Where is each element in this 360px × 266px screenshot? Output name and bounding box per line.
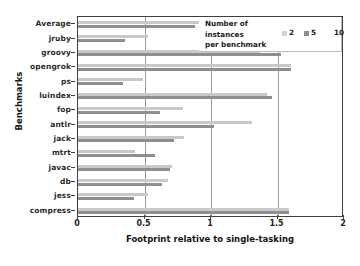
x-tick-mark	[343, 215, 344, 219]
legend-label-5: 5	[311, 28, 316, 37]
bar-antlr-5	[78, 125, 214, 128]
bar-jruby-5	[78, 39, 125, 42]
y-tick-mark	[71, 195, 75, 196]
y-tick-mark	[71, 181, 75, 182]
legend-label-2: 2	[289, 28, 294, 37]
bar-compress-2	[78, 208, 289, 211]
y-tick-label-jack: jack	[54, 134, 71, 143]
y-tick-label-compress: compress	[30, 205, 71, 214]
y-tick-label-jruby: jruby	[49, 33, 71, 42]
bar-jess-2	[78, 193, 148, 196]
y-tick-mark	[71, 95, 75, 96]
bar-ps-5	[78, 82, 123, 85]
bar-groovy-5	[78, 53, 281, 56]
y-tick-label-luindex: luindex	[39, 90, 71, 99]
bar-ps-2	[78, 78, 143, 81]
bar-jack-2	[78, 136, 184, 139]
bar-jess-5	[78, 197, 134, 200]
bar-opengrok-5	[78, 68, 291, 71]
y-tick-mark	[71, 81, 75, 82]
y-tick-label-mtrt: mtrt	[52, 148, 71, 157]
bar-db-2	[78, 179, 168, 182]
bar-group	[78, 132, 342, 146]
bar-group	[78, 74, 342, 88]
y-tick-label-opengrok: opengrok	[30, 62, 71, 71]
y-tick-mark	[71, 52, 75, 53]
y-tick-mark	[71, 109, 75, 110]
bar-mtrt-5	[78, 154, 155, 157]
legend-label-10: 10	[334, 28, 344, 37]
legend-title-line-3: per benchmark	[205, 40, 277, 51]
legend-title-line-2: instances	[205, 30, 277, 41]
chart-legend: Number of instances per benchmark 2 5 10	[199, 17, 342, 52]
bar-Average-2	[78, 21, 202, 24]
y-tick-mark	[71, 124, 75, 125]
bar-mtrt-2	[78, 150, 135, 153]
y-tick-label-fop: fop	[57, 105, 71, 114]
bar-group	[78, 60, 342, 74]
y-tick-label-ps: ps	[61, 76, 71, 85]
bar-group	[78, 146, 342, 160]
y-tick-label-groovy: groovy	[41, 47, 71, 56]
x-tick-label-1: 1	[207, 219, 213, 228]
bar-jack-5	[78, 139, 174, 142]
bar-opengrok-2	[78, 64, 291, 67]
bar-javac-5	[78, 168, 170, 171]
x-tick-label-2: 2	[340, 219, 346, 228]
y-tick-label-db: db	[60, 177, 71, 186]
x-tick-mark	[210, 215, 211, 219]
bar-fop-2	[78, 107, 183, 110]
legend-title: Number of instances per benchmark	[205, 19, 277, 51]
x-axis-title: Footprint relative to single-tasking	[77, 234, 343, 244]
y-tick-label-antlr: antlr	[50, 119, 71, 128]
legend-title-line-1: Number of	[205, 19, 277, 30]
bar-Average-5	[78, 25, 195, 28]
y-tick-label-jess: jess	[54, 191, 71, 200]
y-tick-mark	[71, 38, 75, 39]
y-tick-mark	[71, 210, 75, 211]
bar-group	[78, 161, 342, 175]
chart-figure: Benchmarks Averagejrubygroovyopengrokpsl…	[0, 0, 360, 266]
x-tick-label-0: 0	[74, 219, 80, 228]
bar-group	[78, 175, 342, 189]
x-tick-mark	[144, 215, 145, 219]
y-tick-mark	[71, 167, 75, 168]
x-tick-mark	[77, 215, 78, 219]
bar-group	[78, 103, 342, 117]
bar-group	[78, 118, 342, 132]
bar-compress-5	[78, 211, 289, 214]
x-tick-mark	[277, 215, 278, 219]
y-tick-mark	[71, 66, 75, 67]
y-axis-tick-labels: Averagejrubygroovyopengrokpsluindexfopan…	[0, 16, 75, 217]
bar-luindex-5	[78, 96, 272, 99]
legend-swatch-10-icon	[327, 31, 332, 36]
y-tick-mark	[71, 23, 75, 24]
x-axis-tick-labels: 00.511.52	[77, 219, 343, 235]
bar-luindex-2	[78, 93, 267, 96]
bar-jruby-2	[78, 35, 148, 38]
bar-fop-5	[78, 111, 160, 114]
legend-swatch-5-icon	[304, 31, 309, 36]
x-tick-label-1.5: 1.5	[269, 219, 283, 228]
y-tick-label-javac: javac	[48, 162, 71, 171]
bar-antlr-2	[78, 121, 252, 124]
bar-group	[78, 189, 342, 203]
bar-javac-2	[78, 165, 172, 168]
legend-swatch-2-icon	[282, 31, 287, 36]
y-tick-mark	[71, 152, 75, 153]
y-tick-mark	[71, 138, 75, 139]
x-tick-label-0.5: 0.5	[136, 219, 150, 228]
y-tick-label-Average: Average	[36, 19, 71, 28]
bar-group	[78, 89, 342, 103]
bar-db-5	[78, 183, 162, 186]
